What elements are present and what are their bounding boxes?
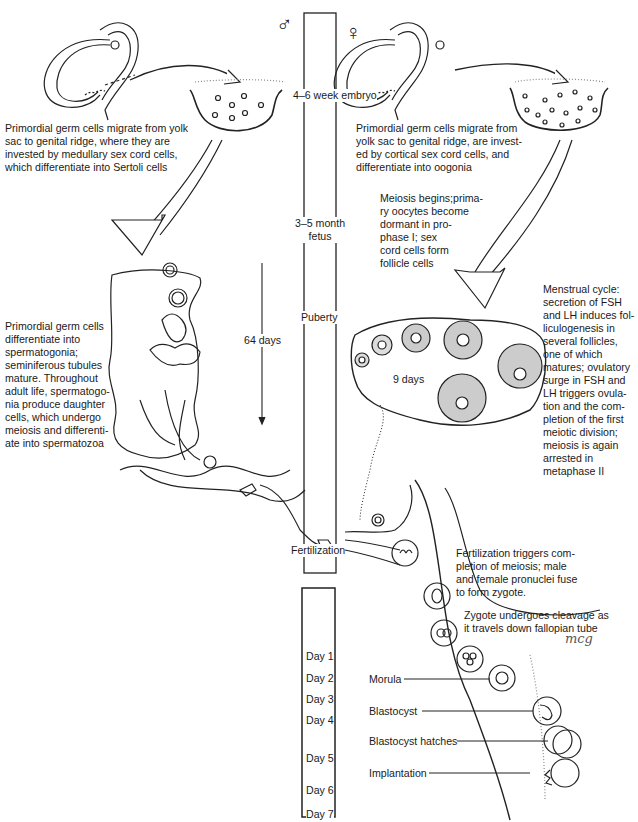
day-label-7: Day 7 [306, 808, 334, 821]
day-label-4: Day 4 [306, 714, 334, 727]
female-gonad-sketch [510, 79, 608, 130]
male-spermatogenesis-text: Primordial germ cells differentiate into… [5, 320, 110, 450]
female-meiosis-text: Meiosis begins;prima- ry oocytes become … [380, 192, 483, 270]
stage-label-embryo: 4–6 week embryo [293, 89, 377, 102]
female-duration-label: 9 days [393, 373, 424, 386]
male-gonad-sketch [190, 80, 285, 131]
day-label-3: Day 3 [306, 693, 334, 706]
stage-label-puberty: Puberty [301, 311, 338, 324]
male-duration-label: 64 days [244, 334, 281, 347]
ovary-sketch [351, 318, 545, 520]
day-label-1: Day 1 [306, 650, 334, 663]
female-migration-text: Primordial germ cells migrate from yolk … [356, 122, 522, 174]
stage-label-fetus: 3–5 month fetus [295, 217, 345, 243]
male-migration-text: Primordial germ cells migrate from yolk … [5, 122, 188, 174]
label-blastocyst-hatches: Blastocyst hatches [369, 735, 457, 748]
sperm-path [260, 485, 322, 545]
male-migration-arrow [130, 66, 235, 81]
male-embryo-sketch [44, 23, 138, 120]
day-label-6: Day 6 [306, 784, 334, 797]
female-menstrual-text: Menstrual cycle: secretion of FSH and LH… [543, 283, 634, 478]
day-label-5: Day 5 [306, 752, 334, 765]
fertilization-text: Fertilization triggers com- pletion of m… [456, 547, 577, 599]
day-label-2: Day 2 [306, 672, 334, 685]
male-symbol: ♂ [276, 14, 293, 36]
label-blastocyst: Blastocyst [369, 705, 417, 718]
artist-signature: mcg [565, 632, 593, 645]
female-symbol: ♀ [345, 22, 362, 44]
stage-label-fertilization: Fertilization [291, 544, 345, 557]
label-implantation: Implantation [369, 767, 427, 780]
label-morula: Morula [369, 673, 401, 686]
seminiferous-tubule-sketch [109, 263, 305, 501]
female-migration-arrow [455, 64, 563, 78]
